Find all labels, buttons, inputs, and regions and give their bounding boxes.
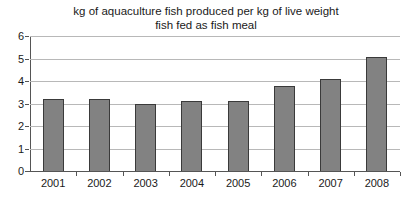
x-axis-label-2003: 2003	[123, 177, 169, 189]
y-tick-6	[25, 36, 29, 37]
x-tick-5	[261, 172, 262, 176]
bar-2004	[181, 101, 202, 171]
x-tick-2	[123, 172, 124, 176]
x-tick-6	[308, 172, 309, 176]
gridline-3	[30, 104, 400, 105]
x-axis-label-2001: 2001	[30, 177, 76, 189]
plot-area	[30, 36, 400, 171]
x-tick-1	[76, 172, 77, 176]
x-axis-label-2005: 2005	[215, 177, 261, 189]
gridline-1	[30, 149, 400, 150]
x-axis-label-2004: 2004	[169, 177, 215, 189]
chart-title-line2: fish fed as fish meal	[0, 18, 412, 32]
y-tick-5	[25, 59, 29, 60]
y-axis-label-2: 2	[2, 120, 24, 132]
y-tick-0	[25, 171, 29, 172]
y-tick-4	[25, 81, 29, 82]
y-axis-label-4: 4	[2, 75, 24, 87]
bar-2005	[228, 101, 249, 171]
x-axis-label-2007: 2007	[308, 177, 354, 189]
y-axis-label-0: 0	[2, 165, 24, 177]
y-tick-2	[25, 126, 29, 127]
gridline-4	[30, 81, 400, 82]
chart-title: kg of aquaculture fish produced per kg o…	[0, 4, 412, 32]
x-axis-label-2006: 2006	[261, 177, 307, 189]
bar-2002	[89, 99, 110, 171]
gridline-2	[30, 126, 400, 127]
gridline-5	[30, 59, 400, 60]
x-tick-4	[215, 172, 216, 176]
bar-chart: kg of aquaculture fish produced per kg o…	[0, 0, 412, 199]
y-tick-3	[25, 104, 29, 105]
y-tick-1	[25, 149, 29, 150]
bar-2008	[366, 57, 387, 171]
y-axis-label-5: 5	[2, 53, 24, 65]
x-axis-label-2002: 2002	[76, 177, 122, 189]
x-axis-label-2008: 2008	[354, 177, 400, 189]
bar-2003	[135, 104, 156, 172]
bar-2007	[320, 79, 341, 171]
x-tick-7	[354, 172, 355, 176]
y-axis-label-3: 3	[2, 98, 24, 110]
y-axis-label-6: 6	[2, 30, 24, 42]
y-axis-label-1: 1	[2, 143, 24, 155]
bar-2006	[274, 86, 295, 172]
bar-2001	[43, 99, 64, 171]
chart-title-line1: kg of aquaculture fish produced per kg o…	[0, 4, 412, 18]
x-tick-3	[169, 172, 170, 176]
gridline-6	[30, 36, 400, 37]
x-tick-8	[400, 172, 401, 176]
